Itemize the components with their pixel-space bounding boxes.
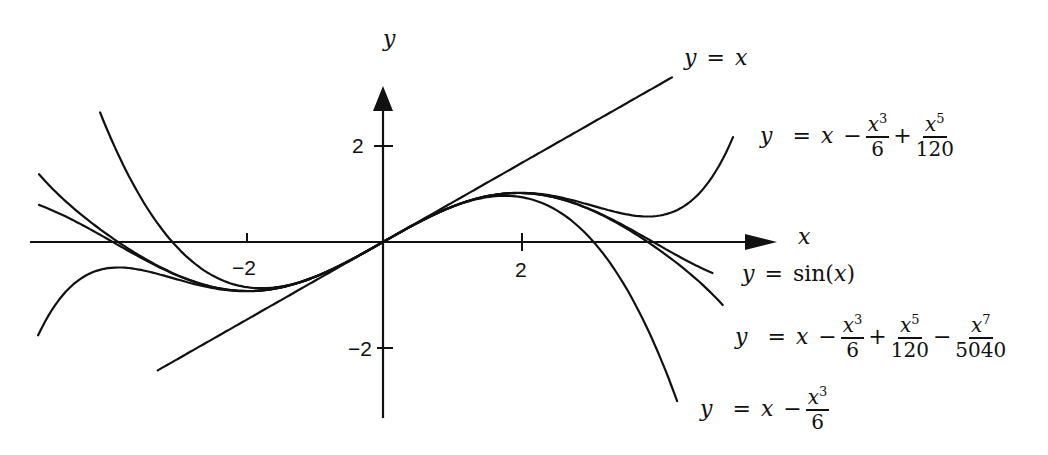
- frac-exp: 5: [911, 312, 919, 327]
- label-fifth-plus: +: [893, 125, 911, 147]
- frac-den: 6: [871, 138, 884, 160]
- frac-num: x: [900, 313, 911, 337]
- label-cubic-lhs: y: [700, 398, 712, 420]
- label-fifth-x: x: [821, 125, 833, 147]
- frac-exp: 7: [982, 312, 990, 327]
- label-cubic-minus: −: [783, 398, 801, 420]
- taylor-series-plot: [0, 0, 1048, 455]
- frac-num: x: [843, 313, 854, 337]
- frac-exp: 3: [819, 384, 827, 399]
- label-linear: y = x: [684, 47, 747, 69]
- fraction-x3-over-6: x3 6: [866, 112, 890, 160]
- frac-den: 120: [891, 339, 929, 361]
- y-axis-arrow-icon: [373, 86, 393, 111]
- frac-den: 6: [811, 411, 824, 433]
- label-seventh-eq: =: [767, 326, 785, 348]
- y-tick-label-neg2: −2: [348, 338, 372, 359]
- label-sine-close: ): [846, 263, 855, 285]
- frac-den: 6: [846, 339, 859, 361]
- label-seventh-lhs: y: [735, 326, 747, 348]
- frac-den: 5040: [955, 339, 1006, 361]
- frac-num: x: [971, 313, 982, 337]
- x-tick-label-neg2: −2: [232, 257, 256, 278]
- frac-exp: 5: [936, 111, 944, 126]
- frac-num: x: [808, 385, 819, 409]
- label-fifth-eq: =: [792, 125, 810, 147]
- label-sine-lhs: y: [742, 263, 754, 285]
- x-axis-arrow-icon: [745, 234, 777, 250]
- frac-num: x: [868, 112, 879, 136]
- label-linear-rhs: x: [735, 47, 747, 69]
- label-sine: y = sin(x ): [742, 263, 855, 285]
- label-seventh-minus: −: [818, 326, 836, 348]
- curve-1: [100, 112, 677, 401]
- label-sine-fn: sin(: [793, 263, 834, 285]
- fraction-x5-over-120: x5 120: [891, 313, 929, 361]
- x-tick-label-pos2: 2: [515, 259, 527, 280]
- label-seventh-plus: +: [868, 326, 886, 348]
- frac-den: 120: [916, 138, 954, 160]
- label-fifth-minus: −: [843, 125, 861, 147]
- label-seventh-x: x: [796, 326, 808, 348]
- label-linear-eq: =: [706, 47, 724, 69]
- fraction-x3-over-6: x3 6: [806, 385, 830, 433]
- y-axis-label: y: [383, 28, 395, 50]
- label-cubic: y = x − x3 6: [700, 385, 833, 433]
- fraction-x5-over-120: x5 120: [916, 112, 954, 160]
- label-linear-lhs: y: [684, 47, 696, 69]
- x-axis-label: x: [798, 226, 810, 248]
- fraction-x3-over-6: x3 6: [841, 313, 865, 361]
- label-cubic-eq: =: [732, 398, 750, 420]
- y-tick-label-pos2: 2: [352, 135, 364, 156]
- label-cubic-x: x: [761, 398, 773, 420]
- label-fifth-order: y = x − x3 6 + x5 120: [760, 112, 958, 160]
- label-fifth-lhs: y: [760, 125, 772, 147]
- label-sine-arg: x: [834, 263, 846, 285]
- curve-2: [38, 137, 733, 335]
- label-sine-eq: =: [764, 263, 782, 285]
- frac-num: x: [925, 112, 936, 136]
- fraction-x7-over-5040: x7 5040: [955, 313, 1006, 361]
- label-seventh-minus2: −: [933, 326, 951, 348]
- curve-3: [39, 174, 723, 305]
- frac-exp: 3: [879, 111, 887, 126]
- label-seventh-order: y = x − x3 6 + x5 120 − x7 5040: [735, 313, 1010, 361]
- frac-exp: 3: [854, 312, 862, 327]
